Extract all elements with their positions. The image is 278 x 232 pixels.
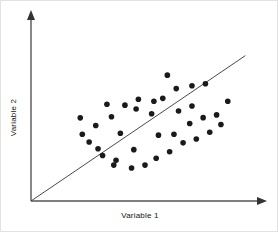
data-point bbox=[113, 158, 119, 164]
x-axis-arrowhead bbox=[257, 197, 267, 205]
data-point bbox=[111, 162, 117, 168]
data-point bbox=[207, 129, 213, 135]
data-point bbox=[203, 81, 209, 87]
data-point bbox=[80, 131, 86, 137]
data-point bbox=[173, 86, 179, 92]
data-point bbox=[136, 96, 142, 102]
data-point bbox=[189, 103, 195, 109]
data-point bbox=[167, 149, 173, 155]
data-points-group bbox=[77, 72, 230, 171]
data-point bbox=[180, 140, 186, 146]
data-point bbox=[151, 98, 157, 104]
data-point bbox=[165, 72, 171, 78]
plot-canvas bbox=[1, 1, 278, 232]
axes-group bbox=[27, 10, 267, 205]
data-point bbox=[93, 123, 99, 129]
data-point bbox=[118, 130, 124, 136]
data-point bbox=[176, 108, 182, 114]
data-point bbox=[149, 111, 155, 117]
data-point bbox=[200, 115, 206, 121]
scatter-plot-figure: Variable 1 Variable 2 bbox=[0, 0, 278, 232]
data-point bbox=[214, 112, 220, 118]
y-axis-label: Variable 2 bbox=[9, 82, 18, 154]
data-point bbox=[129, 165, 135, 171]
data-point bbox=[104, 101, 110, 107]
data-point bbox=[225, 98, 231, 104]
data-point bbox=[153, 156, 159, 162]
trend-line-segment bbox=[31, 56, 245, 201]
data-point bbox=[171, 131, 177, 137]
data-point bbox=[109, 114, 115, 120]
data-point bbox=[77, 115, 83, 121]
data-point bbox=[187, 121, 193, 127]
data-point bbox=[86, 139, 92, 145]
data-point bbox=[218, 122, 224, 128]
data-point bbox=[189, 83, 195, 89]
data-point bbox=[133, 106, 139, 112]
data-point bbox=[160, 96, 166, 102]
y-axis-arrowhead bbox=[27, 10, 35, 20]
data-point bbox=[142, 162, 148, 168]
data-point bbox=[194, 136, 200, 142]
data-point bbox=[122, 102, 128, 108]
trend-line bbox=[31, 56, 245, 201]
data-point bbox=[100, 153, 106, 159]
data-point bbox=[95, 146, 101, 152]
data-point bbox=[156, 132, 162, 138]
x-axis-label: Variable 1 bbox=[1, 211, 278, 220]
data-point bbox=[131, 147, 137, 153]
